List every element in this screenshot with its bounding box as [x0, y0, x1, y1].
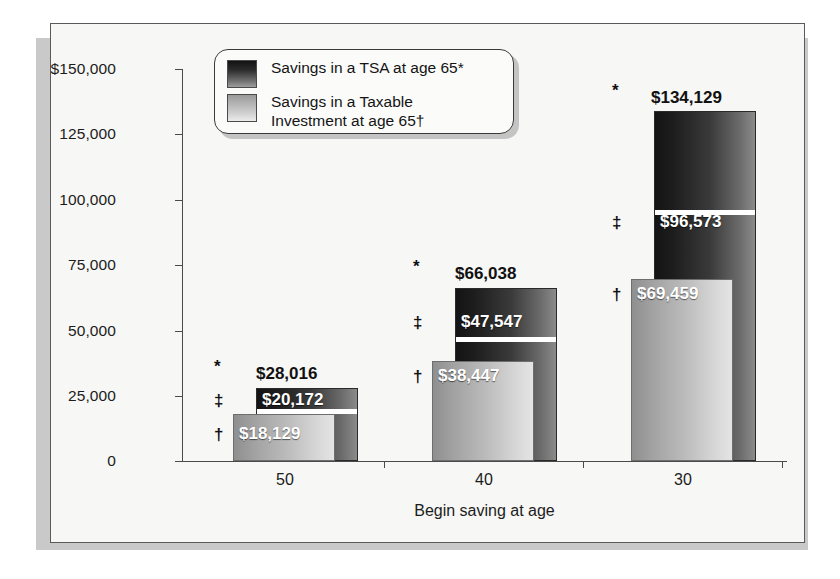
x-tick-mark	[583, 461, 584, 468]
x-axis-line	[182, 461, 787, 462]
label-total-30: $134,129	[651, 88, 722, 108]
legend-swatch-dark-icon	[227, 60, 257, 88]
bar-divider-line	[456, 337, 556, 342]
y-axis-label: 75,000	[0, 256, 116, 274]
x-axis-label-40: 40	[444, 471, 524, 489]
marker-asterisk-50: *	[214, 358, 221, 375]
legend-item-taxable: Savings in a Taxable Investment at age 6…	[227, 93, 503, 131]
label-total-50: $28,016	[256, 364, 317, 384]
y-tick-mark	[175, 265, 183, 266]
label-mid-40: $47,547	[461, 312, 522, 332]
plot-area: $150,000 125,000 100,000 75,000 50,000 2…	[51, 24, 806, 544]
label-base-40: $38,447	[438, 366, 499, 386]
y-axis-label: 0	[0, 452, 116, 470]
label-total-40: $66,038	[455, 264, 516, 284]
x-tick-mark	[782, 461, 783, 468]
legend-item-tsa: Savings in a TSA at age 65*	[227, 59, 503, 88]
x-axis-label-50: 50	[245, 471, 325, 489]
y-tick-mark	[175, 461, 183, 462]
y-tick-mark	[175, 331, 183, 332]
legend-label-tsa: Savings in a TSA at age 65*	[271, 59, 464, 78]
marker-dagger-40: †	[413, 368, 422, 385]
y-tick-mark	[175, 200, 183, 201]
chart-panel: $150,000 125,000 100,000 75,000 50,000 2…	[50, 23, 805, 543]
legend-label-taxable: Savings in a Taxable Investment at age 6…	[271, 93, 424, 131]
bar-taxable-30	[631, 279, 733, 461]
label-mid-30: $96,573	[660, 212, 721, 232]
y-axis-label: 50,000	[0, 322, 116, 340]
y-axis-label: 125,000	[0, 125, 116, 143]
y-axis-label: $150,000	[0, 60, 116, 78]
x-tick-mark	[384, 461, 385, 468]
legend-swatch-light-icon	[227, 94, 257, 122]
marker-asterisk-40: *	[413, 258, 420, 275]
marker-doubledagger-40: ‡	[413, 314, 422, 331]
y-axis-label: 100,000	[0, 191, 116, 209]
label-base-50: $18,129	[239, 424, 300, 444]
marker-asterisk-30: *	[612, 82, 619, 99]
x-axis-title: Begin saving at age	[182, 502, 787, 520]
label-base-30: $69,459	[637, 284, 698, 304]
marker-doubledagger-50: ‡	[214, 392, 223, 409]
y-tick-mark	[175, 134, 183, 135]
label-mid-50: $20,172	[262, 390, 323, 410]
marker-doubledagger-30: ‡	[612, 214, 621, 231]
marker-dagger-50: †	[214, 426, 223, 443]
chart-legend: Savings in a TSA at age 65* Savings in a…	[214, 49, 514, 134]
y-tick-mark	[175, 396, 183, 397]
marker-dagger-30: †	[612, 286, 621, 303]
chart-figure: $150,000 125,000 100,000 75,000 50,000 2…	[0, 0, 840, 579]
y-axis-label: 25,000	[0, 387, 116, 405]
x-axis-label-30: 30	[643, 471, 723, 489]
y-tick-mark	[175, 69, 183, 70]
